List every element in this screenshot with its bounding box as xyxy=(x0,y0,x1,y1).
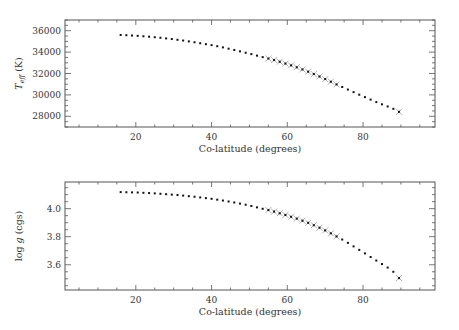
data-point xyxy=(154,192,156,194)
y-axis-title: log g (cgs) xyxy=(13,211,24,262)
data-point xyxy=(341,239,343,241)
data-point xyxy=(171,38,173,40)
y-axis-title: Teff (K) xyxy=(13,57,26,89)
data-point xyxy=(381,263,383,265)
x-tick-label: 20 xyxy=(130,295,142,305)
data-point xyxy=(353,91,355,93)
data-point xyxy=(165,193,167,195)
x-axis-title: Co-latitude (degrees) xyxy=(199,143,301,154)
data-point xyxy=(284,214,286,216)
data-point xyxy=(375,260,377,262)
x-tick-label: 20 xyxy=(130,132,142,142)
y-tick-label: 34000 xyxy=(32,47,61,57)
data-point xyxy=(148,192,150,194)
x-tick-label: 60 xyxy=(282,132,294,142)
data-point xyxy=(313,73,315,75)
data-point xyxy=(358,249,360,251)
data-point xyxy=(194,41,196,43)
data-point xyxy=(375,101,377,103)
data-point xyxy=(228,48,230,50)
data-point xyxy=(222,46,224,48)
data-point xyxy=(222,200,224,202)
data-point xyxy=(279,212,281,214)
data-point xyxy=(381,103,383,105)
data-point xyxy=(211,198,213,200)
data-point xyxy=(165,37,167,39)
data-point xyxy=(188,40,190,42)
data-point xyxy=(318,227,320,229)
data-point xyxy=(142,192,144,194)
data-series xyxy=(120,191,402,281)
data-point xyxy=(262,56,264,58)
data-point xyxy=(290,216,292,218)
data-point xyxy=(330,232,332,234)
data-point xyxy=(171,194,173,196)
data-point xyxy=(347,242,349,244)
data-point xyxy=(324,78,326,80)
data-point xyxy=(194,196,196,198)
data-point xyxy=(125,191,127,193)
data-point xyxy=(256,55,258,57)
data-point xyxy=(137,192,139,194)
data-point xyxy=(387,105,389,107)
data-point xyxy=(245,204,247,206)
data-point xyxy=(250,205,252,207)
data-point xyxy=(228,200,230,202)
data-point xyxy=(199,42,201,44)
y-tick-label: 3.8 xyxy=(47,232,62,242)
data-point xyxy=(182,40,184,42)
data-point xyxy=(341,86,343,88)
data-point xyxy=(182,195,184,197)
figure: 204060802800030000320003400036000Co-lati… xyxy=(0,0,459,330)
data-point xyxy=(318,75,320,77)
data-point xyxy=(131,191,133,193)
data-point xyxy=(301,220,303,222)
x-tick-label: 40 xyxy=(206,132,218,142)
x-axis-title: Co-latitude (degrees) xyxy=(199,306,301,317)
data-point xyxy=(262,208,264,210)
data-point xyxy=(279,61,281,63)
data-point xyxy=(387,267,389,269)
data-point xyxy=(330,81,332,83)
data-point xyxy=(120,34,122,36)
logg-plot: 204060803.63.84.0Co-latitude (degrees)lo… xyxy=(13,182,435,317)
data-point xyxy=(398,277,400,279)
data-point xyxy=(205,197,207,199)
data-point xyxy=(211,44,213,46)
data-point xyxy=(307,71,309,73)
data-point xyxy=(273,211,275,213)
data-point xyxy=(353,245,355,247)
plot-frame xyxy=(65,20,435,127)
data-point xyxy=(239,50,241,52)
data-point xyxy=(131,35,133,37)
data-point xyxy=(392,271,394,273)
data-point xyxy=(176,39,178,41)
plot-frame xyxy=(65,182,435,290)
data-point xyxy=(336,83,338,85)
data-point xyxy=(364,252,366,254)
data-point xyxy=(296,66,298,68)
x-tick-label: 80 xyxy=(357,295,369,305)
data-series xyxy=(120,34,402,115)
y-tick-label: 30000 xyxy=(32,90,61,100)
data-point xyxy=(370,99,372,101)
data-point xyxy=(239,203,241,205)
data-point xyxy=(159,37,161,39)
data-point xyxy=(256,206,258,208)
data-point xyxy=(296,218,298,220)
data-point xyxy=(267,209,269,211)
data-point xyxy=(358,94,360,96)
data-point xyxy=(301,68,303,70)
data-point xyxy=(176,194,178,196)
data-point xyxy=(233,201,235,203)
x-tick-label: 60 xyxy=(282,295,294,305)
data-point xyxy=(148,36,150,38)
data-point xyxy=(120,191,122,193)
data-point xyxy=(216,45,218,47)
data-point xyxy=(324,229,326,231)
data-point xyxy=(245,52,247,54)
data-point xyxy=(205,43,207,45)
x-tick-label: 80 xyxy=(357,132,369,142)
data-point xyxy=(199,196,201,198)
x-tick-label: 40 xyxy=(206,295,218,305)
